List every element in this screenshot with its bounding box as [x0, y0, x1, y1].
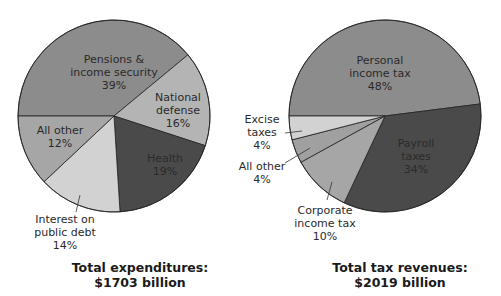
revenues-pie — [289, 20, 481, 212]
right-title-line1: Total tax revenues: — [300, 260, 500, 275]
label-personal: Personal income tax 48% — [340, 54, 420, 93]
label-corporate: Corporate income tax 10% — [285, 204, 365, 243]
label-defense: National defense 16% — [148, 91, 208, 130]
right-title-line2: $2019 billion — [300, 275, 500, 290]
right-title: Total tax revenues: $2019 billion — [300, 260, 500, 290]
label-interest: Interest on public debt 14% — [25, 213, 105, 252]
label-health: Health 19% — [135, 152, 195, 178]
label-other-exp: All other 12% — [30, 124, 90, 150]
label-excise: Excise taxes 4% — [232, 113, 292, 152]
left-title-line1: Total expenditures: — [40, 260, 240, 275]
left-title: Total expenditures: $1703 billion — [40, 260, 240, 290]
label-payroll: Payroll taxes 34% — [386, 137, 446, 176]
left-title-line2: $1703 billion — [40, 275, 240, 290]
label-other-rev: All other 4% — [232, 160, 292, 186]
label-pensions: Pensions & income security 39% — [54, 53, 174, 92]
